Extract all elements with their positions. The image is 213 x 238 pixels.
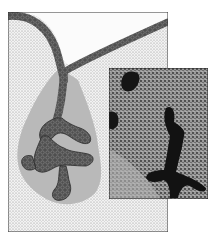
inset-micrograph [109,68,208,199]
histology-figure [0,0,213,238]
